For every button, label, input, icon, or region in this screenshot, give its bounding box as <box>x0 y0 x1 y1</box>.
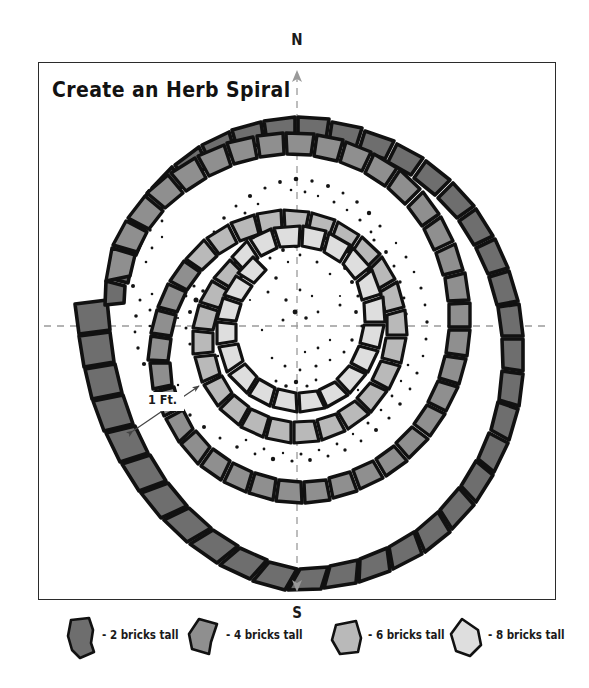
spiral-diagram-canvas <box>0 0 589 688</box>
legend-label-8-bricks: - 8 bricks tall <box>488 628 565 642</box>
brick-swatch-4 <box>186 616 224 660</box>
legend-label-2-bricks: - 2 bricks tall <box>102 628 179 642</box>
brick-swatch-8 <box>448 616 486 660</box>
brick-course-second <box>106 133 470 503</box>
legend-label-4-bricks: - 4 bricks tall <box>226 628 303 642</box>
brick-swatch-6 <box>328 616 366 660</box>
brick-swatch-2 <box>62 616 100 660</box>
dimension-label: 1 Ft. <box>148 392 177 407</box>
herb-spiral-illustration: N S Create an Herb Spiral <box>0 0 589 688</box>
legend: - 2 bricks tall - 4 bricks tall - 6 bric… <box>38 612 578 676</box>
brick-course-inner <box>217 226 385 412</box>
legend-label-6-bricks: - 6 bricks tall <box>368 628 445 642</box>
